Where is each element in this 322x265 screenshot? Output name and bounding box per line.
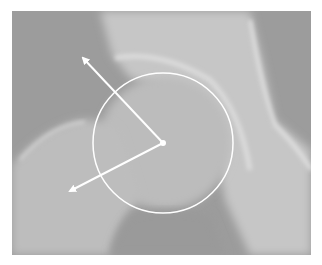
xray-graphic <box>12 11 311 255</box>
xray-image <box>12 11 311 255</box>
center-dot <box>160 140 166 146</box>
